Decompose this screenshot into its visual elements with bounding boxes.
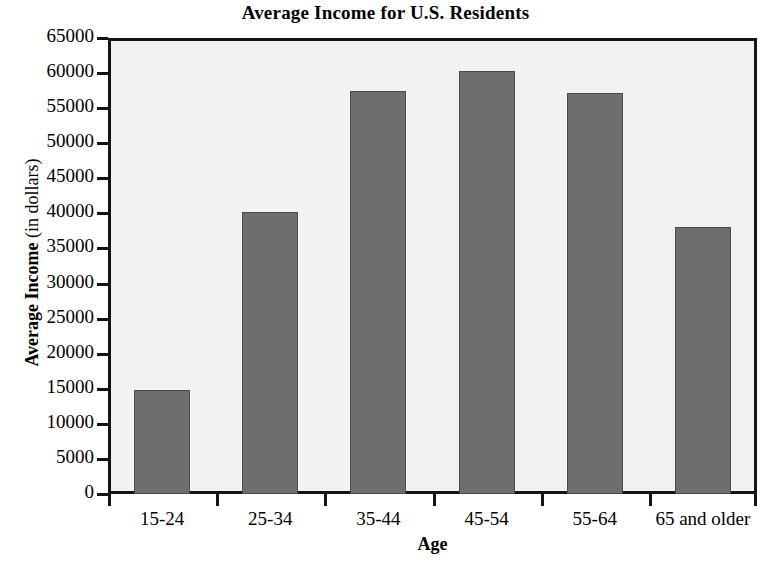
bars-layer [108, 38, 757, 494]
y-axis-tick-mark [97, 493, 108, 496]
x-axis-tick-label: 15-24 [108, 508, 216, 530]
y-axis-tick-label: 20000 [47, 342, 95, 361]
x-axis-tick-mark [108, 494, 111, 506]
bar [567, 93, 623, 494]
y-axis-tick-label: 15000 [47, 377, 95, 396]
y-axis-tick-label: 25000 [47, 307, 95, 326]
x-axis-tick-mark [649, 494, 652, 506]
chart-title: Average Income for U.S. Residents [0, 2, 771, 24]
y-axis-tick-label: 10000 [47, 412, 95, 431]
y-axis-tick-mark [97, 107, 108, 110]
bar [134, 390, 190, 494]
x-axis-tick-mark [541, 494, 544, 506]
y-axis-tick-mark [97, 37, 108, 40]
x-axis-title: Age [108, 534, 757, 555]
bar-chart: Average Income for U.S. Residents Averag… [0, 0, 771, 564]
y-axis-tick-label: 0 [85, 482, 95, 501]
y-axis-tick-mark [97, 458, 108, 461]
y-axis: 0500010000150002000025000300003500040000… [0, 38, 108, 494]
x-axis-tick-label: 65 and older [649, 508, 757, 530]
x-axis-tick-label: 55-64 [541, 508, 649, 530]
bar [350, 91, 406, 494]
y-axis-tick-label: 30000 [47, 272, 95, 291]
y-axis-tick-mark [97, 72, 108, 75]
y-axis-tick-mark [97, 177, 108, 180]
bar [459, 71, 515, 494]
x-axis-tick-label: 45-54 [433, 508, 541, 530]
x-axis-tick-label: 35-44 [324, 508, 432, 530]
y-axis-tick-mark [97, 353, 108, 356]
y-axis-tick-mark [97, 388, 108, 391]
y-axis-tick-label: 65000 [47, 26, 95, 45]
y-axis-tick-label: 50000 [47, 131, 95, 150]
x-axis-tick-mark [324, 494, 327, 506]
bar [675, 227, 731, 494]
y-axis-tick-mark [97, 247, 108, 250]
y-axis-tick-mark [97, 283, 108, 286]
y-axis-tick-label: 5000 [56, 447, 94, 466]
y-axis-tick-mark [97, 423, 108, 426]
x-axis-tick-mark [754, 494, 757, 506]
x-axis-tick-mark [216, 494, 219, 506]
x-axis-tick-label: 25-34 [216, 508, 324, 530]
y-axis-tick-mark [97, 318, 108, 321]
y-axis-tick-label: 45000 [47, 166, 95, 185]
y-axis-tick-label: 55000 [47, 96, 95, 115]
y-axis-tick-mark [97, 142, 108, 145]
y-axis-tick-mark [97, 212, 108, 215]
bar [242, 212, 298, 494]
x-axis: Age 15-2425-3435-4445-5455-6465 and olde… [108, 494, 757, 564]
y-axis-tick-label: 60000 [47, 61, 95, 80]
y-axis-tick-label: 40000 [47, 201, 95, 220]
x-axis-tick-mark [433, 494, 436, 506]
y-axis-tick-label: 35000 [47, 236, 95, 255]
